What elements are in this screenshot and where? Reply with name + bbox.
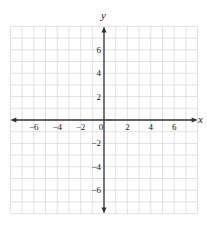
x-tick-label: 2 [125,122,130,132]
y-tick-label: 6 [97,45,102,55]
y-tick-label: −4 [91,162,101,172]
y-axis-label: y [100,9,106,21]
y-axis-arrow-up-icon [102,26,107,32]
x-axis-arrow-left-icon [10,118,16,123]
y-axis-arrow-down-icon [102,208,107,214]
x-tick-label: −6 [29,122,39,132]
x-tick-label: 6 [172,122,177,132]
x-tick-label: −2 [76,122,86,132]
y-tick-label: 2 [97,92,102,102]
x-axis-arrow-right-icon [192,118,198,123]
y-tick-label: −6 [91,185,101,195]
x-tick-label: 4 [149,122,154,132]
y-tick-label: −2 [91,138,101,148]
x-tick-label: −4 [52,122,62,132]
axes [10,26,197,213]
coordinate-plane: −6−4−20246 642−2−4−6 x y [0,0,207,227]
x-tick-label: 0 [99,122,104,132]
x-tick-labels: −6−4−20246 [29,122,177,132]
x-axis-label: x [197,113,203,125]
y-tick-label: 4 [97,68,102,78]
